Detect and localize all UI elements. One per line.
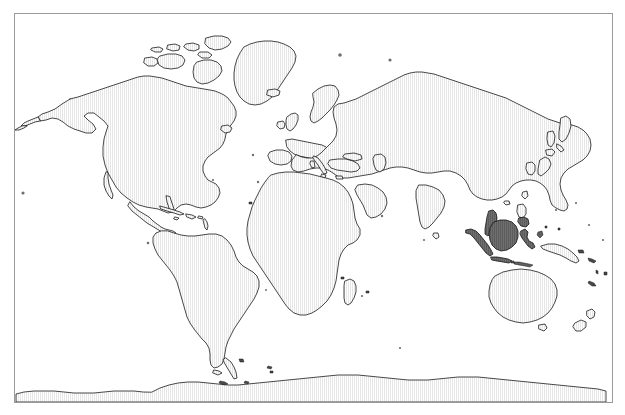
highlight-bali	[511, 261, 514, 263]
island-baffin	[193, 60, 222, 84]
highlight-lesser-sunda-islands	[514, 262, 533, 267]
island-new-caledonia	[588, 281, 596, 286]
island-dot-galapagos	[147, 242, 150, 245]
island-madagascar	[344, 279, 356, 305]
island-hispaniola	[186, 214, 196, 219]
island-jamaica	[174, 217, 179, 220]
island-iceland	[267, 89, 280, 97]
island-dot-kerguelen	[399, 347, 401, 349]
island-palau	[545, 226, 547, 228]
island-new-zealand-north	[587, 309, 595, 319]
landmass-australia	[489, 269, 557, 323]
island-dot-hawaii	[21, 191, 24, 194]
island-victoria	[157, 54, 185, 69]
island-dot-marianas	[555, 209, 557, 211]
island-tierra-del-fuego	[213, 370, 222, 375]
highlight-mindanao-sulu	[518, 217, 529, 227]
island-dot-st-helena	[265, 289, 267, 291]
landmass-korea	[526, 162, 535, 175]
highlight-java	[491, 257, 512, 263]
world-map-figure: Outline world map in Miller-style cylind…	[0, 0, 625, 415]
island-crete	[336, 176, 343, 179]
landmass-antarctica	[16, 375, 606, 402]
island-dot-svalbard	[338, 53, 342, 57]
landmass-aleutians	[15, 126, 27, 130]
island-mauritius	[366, 291, 369, 293]
island-dot-bermuda	[212, 179, 214, 181]
island-dot-novaya-zemlya	[388, 58, 391, 61]
highlight-halmahera	[537, 231, 543, 238]
landmass-alaska-panhandle	[21, 117, 40, 126]
island-arctic-minor-b	[167, 44, 180, 51]
highlight-sulawesi	[520, 229, 535, 249]
island-falklands	[239, 359, 244, 362]
island-sri-lanka	[433, 233, 439, 239]
island-comoros	[341, 277, 344, 279]
world-map-canvas	[0, 0, 625, 415]
landmass-antarctic-peninsula	[223, 358, 237, 379]
island-arctic-minor-d	[151, 47, 163, 52]
island-south-orkney	[244, 381, 249, 384]
landmass-iberia	[268, 150, 292, 165]
island-arctic-minor-a	[184, 43, 199, 51]
island-puerto-rico	[198, 216, 203, 219]
island-fiji	[604, 272, 607, 275]
island-dot-maldives	[423, 239, 425, 241]
island-dot-kiribati	[602, 239, 604, 241]
island-ireland	[277, 121, 285, 129]
island-dot-canary	[257, 181, 259, 183]
island-solomon-islands	[588, 258, 596, 263]
landmass-india	[416, 185, 445, 229]
island-luzon	[517, 204, 526, 218]
island-dot-marshall	[588, 224, 590, 226]
island-southern-ocean-dot	[270, 371, 273, 373]
landmass-greenland	[234, 41, 296, 105]
island-cape-verde	[249, 202, 252, 204]
island-taiwan	[522, 191, 528, 199]
island-dot-wake	[575, 202, 577, 204]
island-lesser-antilles	[203, 219, 208, 230]
island-vanuatu	[596, 270, 598, 274]
landmass-south-america	[153, 231, 259, 368]
island-micronesia-dots	[558, 228, 560, 230]
island-new-britain	[578, 250, 584, 253]
island-south-georgia	[267, 366, 272, 369]
landmass-africa	[247, 172, 360, 315]
island-ellesmere	[205, 36, 231, 50]
island-arctic-minor-c	[198, 52, 212, 58]
landmass-arabian-peninsula	[355, 184, 387, 218]
island-tasmania	[539, 324, 547, 331]
island-new-guinea	[541, 244, 579, 263]
island-british-isles	[286, 113, 298, 131]
island-dot-azores	[252, 154, 254, 156]
highlight-borneo	[489, 220, 518, 251]
landmass-north-america	[38, 76, 236, 213]
island-banks	[144, 57, 158, 66]
island-dot-socotra	[381, 215, 383, 217]
island-dot-reunion	[361, 295, 363, 297]
island-new-zealand-south	[573, 320, 586, 331]
island-hainan	[504, 201, 510, 205]
